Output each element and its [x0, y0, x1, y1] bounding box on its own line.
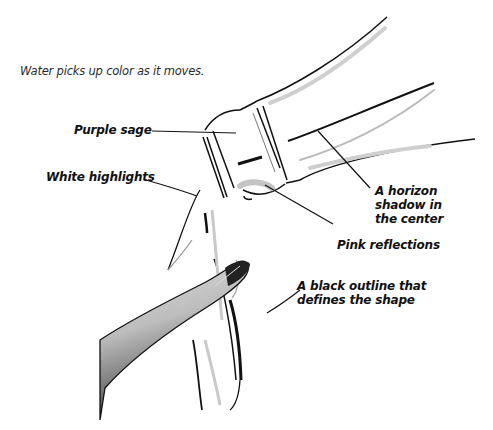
label-horizon: A horizon shadow in the center [375, 184, 443, 226]
label-black-outline: A black outline that defines the shape [297, 279, 426, 307]
leader-outline [267, 290, 300, 313]
label-horizon-line3: the center [375, 212, 443, 226]
label-outline-line1: A black outline that [297, 279, 426, 293]
bottle-shading [240, 28, 434, 188]
bottle [203, 17, 475, 199]
water-shading [205, 210, 222, 405]
label-purple-sage: Purple sage [74, 123, 152, 137]
label-pink-reflections: Pink reflections [337, 238, 440, 252]
label-horizon-line2: shadow in [375, 198, 443, 212]
label-outline-line2: defines the shape [297, 293, 426, 307]
finger [100, 261, 250, 420]
leader-horizon [318, 131, 370, 188]
label-white-highlights: White highlights [46, 170, 155, 184]
leader-pink-reflections [265, 185, 333, 224]
leader-purple-sage [152, 131, 236, 133]
label-horizon-line1: A horizon [375, 184, 443, 198]
